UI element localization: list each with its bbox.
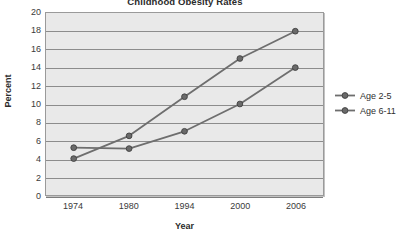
x-axis-tick-labels: 19741980199420002006	[45, 201, 324, 215]
legend-label: Age 6-11	[360, 106, 396, 116]
x-axis-tick-label: 1974	[63, 201, 83, 211]
legend-marker-icon	[334, 105, 356, 116]
x-axis-title: Year	[45, 221, 324, 231]
series-layer	[46, 13, 323, 195]
gridline	[46, 197, 323, 198]
chart-title: Childhood Obesity Rates	[45, 0, 325, 7]
data-point-marker	[292, 65, 298, 71]
data-point-marker	[237, 56, 243, 62]
y-axis-tick-label: 16	[31, 44, 41, 53]
data-point-marker	[182, 94, 188, 100]
chart-container: Childhood Obesity Rates Percent 02468101…	[0, 0, 410, 237]
series-line	[74, 68, 296, 149]
data-point-marker	[126, 146, 132, 152]
plot-area	[45, 12, 324, 196]
data-point-marker	[292, 28, 298, 34]
legend-entry[interactable]: Age 2-5	[334, 88, 410, 103]
data-point-marker	[71, 145, 77, 151]
data-point-marker	[237, 101, 243, 107]
y-axis-tick-labels: 02468101214161820	[10, 12, 41, 196]
y-axis-tick-label: 20	[31, 8, 41, 17]
legend-marker-icon	[334, 90, 356, 101]
x-axis-tick-label: 1980	[119, 201, 139, 211]
y-axis-tick-label: 4	[36, 155, 41, 164]
chart-legend: Age 2-5Age 6-11	[334, 88, 410, 118]
x-axis-tick-label: 2000	[230, 201, 250, 211]
y-axis-tick-label: 12	[31, 81, 41, 90]
y-axis-tick-label: 14	[31, 63, 41, 72]
y-axis-tick-label: 18	[31, 26, 41, 35]
legend-entry[interactable]: Age 6-11	[334, 103, 410, 118]
x-axis-tick-label: 1994	[174, 201, 194, 211]
y-axis-tick-label: 0	[36, 192, 41, 201]
x-axis-tick-label: 2006	[286, 201, 306, 211]
y-axis-tick-label: 6	[36, 136, 41, 145]
data-point-marker	[182, 128, 188, 134]
legend-label: Age 2-5	[360, 91, 392, 101]
y-axis-tick-label: 10	[31, 100, 41, 109]
y-axis-tick-label: 2	[36, 173, 41, 182]
data-point-marker	[71, 156, 77, 162]
y-axis-tick-label: 8	[36, 118, 41, 127]
data-point-marker	[126, 133, 132, 139]
